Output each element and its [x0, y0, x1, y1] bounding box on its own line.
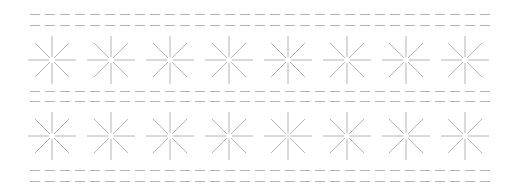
starburst-icon [264, 36, 312, 84]
starburst-icon [323, 112, 371, 160]
starburst-grid [28, 36, 489, 160]
starburst-icon [205, 112, 253, 160]
starburst-icon [382, 112, 430, 160]
starburst-icon [146, 112, 194, 160]
starburst-icon [323, 36, 371, 84]
dashed-lines [30, 15, 490, 182]
starburst-icon [382, 36, 430, 84]
starburst-icon [264, 112, 312, 160]
starburst-icon [87, 36, 135, 84]
starburst-icon [28, 112, 76, 160]
pattern-canvas [0, 0, 512, 192]
starburst-icon [441, 112, 489, 160]
starburst-icon [87, 112, 135, 160]
starburst-icon [28, 36, 76, 84]
starburst-icon [146, 36, 194, 84]
starburst-icon [441, 36, 489, 84]
starburst-icon [205, 36, 253, 84]
